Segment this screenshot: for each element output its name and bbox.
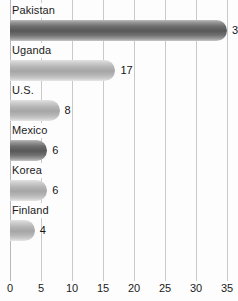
category-label: Pakistan <box>11 3 58 18</box>
bar <box>10 220 35 241</box>
bar-value-label: 6 <box>52 143 58 158</box>
plot-area: Pakistan3Uganda17U.S.8Mexico6Korea6Finla… <box>0 0 238 281</box>
bar <box>10 180 47 201</box>
x-tick-label-25: 25 <box>159 282 171 294</box>
bar <box>10 100 60 121</box>
x-tick-label-0: 0 <box>7 282 13 294</box>
bar-value-label: 17 <box>120 63 132 78</box>
category-label: U.S. <box>11 83 37 98</box>
category-label: Finland <box>11 203 52 218</box>
x-tick-label-20: 20 <box>128 282 140 294</box>
category-label: Uganda <box>11 43 54 58</box>
bar-group: Uganda17 <box>0 43 238 83</box>
bar-group: Mexico6 <box>0 123 238 163</box>
bar <box>10 60 115 81</box>
x-axis: 05101520253035 <box>0 281 238 301</box>
bar-value-label: 4 <box>40 223 46 238</box>
bar-value-label: 6 <box>52 183 58 198</box>
x-tick-label-30: 30 <box>190 282 202 294</box>
bar-chart: Pakistan3Uganda17U.S.8Mexico6Korea6Finla… <box>0 0 238 301</box>
bar-value-label: 3 <box>232 23 238 38</box>
category-label: Korea <box>11 163 45 178</box>
bar-value-label: 8 <box>65 103 71 118</box>
bar-group: U.S.8 <box>0 83 238 123</box>
bar-group: Pakistan3 <box>0 3 238 43</box>
x-tick-label-15: 15 <box>97 282 109 294</box>
x-tick-label-5: 5 <box>38 282 44 294</box>
bar-group: Finland4 <box>0 203 238 243</box>
category-label: Mexico <box>11 123 50 138</box>
bar <box>10 20 227 41</box>
x-tick-label-35: 35 <box>221 282 233 294</box>
x-tick-label-10: 10 <box>66 282 78 294</box>
bar <box>10 140 47 161</box>
bar-group: Korea6 <box>0 163 238 203</box>
